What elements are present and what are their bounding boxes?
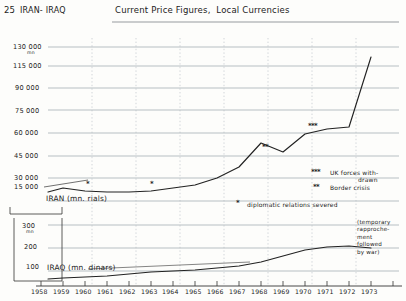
annotation-box-line-2: rapproche- — [357, 226, 403, 233]
x-label-1971: 1971 — [317, 288, 334, 295]
x-label-1968: 1968 — [251, 288, 268, 295]
iran-series-label: IRAN (mn. rials) — [46, 194, 107, 203]
country-pair-label: IRAN- IRAQ — [20, 6, 66, 15]
x-label-1973: 1973 — [361, 288, 378, 295]
x-label-1970: 1970 — [295, 288, 312, 295]
annotation-box-line-3: ment — [357, 234, 403, 241]
y-label-90000: 90 000 — [15, 84, 39, 92]
x-label-1967: 1967 — [229, 288, 246, 295]
marker-double-1969: ** — [262, 143, 268, 151]
iran-leader-line — [44, 180, 88, 187]
x-label-1965: 1965 — [185, 288, 202, 295]
y-unit-note-top: mn — [27, 50, 35, 55]
annotation-box: (temporary rapproche- ment followed by w… — [357, 219, 403, 272]
legend-marker-single: * — [236, 199, 239, 207]
y-label-115000: 115 000 — [13, 62, 42, 70]
iraq-series-label: IRAQ (mn. dinars) — [47, 263, 116, 272]
x-label-1969: 1969 — [273, 288, 290, 295]
y-label-75000: 75 000 — [15, 107, 39, 115]
marker-single-1961: * — [86, 180, 89, 188]
horizontal-gridlines — [48, 47, 399, 271]
x-label-1962: 1962 — [119, 288, 136, 295]
x-label-1959: 1959 — [53, 288, 70, 295]
y-label-30000: 30 000 — [14, 174, 38, 182]
legend-text-uk-forces-cont: drawn — [358, 176, 378, 183]
x-label-1966: 1966 — [207, 288, 224, 295]
chart-page: 25 IRAN- IRAQ Current Price Figures, Loc… — [0, 0, 406, 301]
legend-marker-triple: *** — [311, 168, 320, 176]
x-axis-ticks — [41, 281, 393, 286]
annotation-box-line-1: (temporary — [357, 219, 403, 226]
x-label-1960: 1960 — [75, 288, 92, 295]
chart-canvas — [0, 0, 406, 301]
page-number: 25 — [4, 5, 15, 15]
secondary-scale-bracket-top — [10, 207, 62, 214]
marker-triple-1971: *** — [308, 122, 317, 130]
y-label-45000: 45 000 — [14, 152, 38, 160]
x-label-1972: 1972 — [339, 288, 356, 295]
x-label-1958: 1958 — [31, 288, 48, 295]
x-label-1964: 1964 — [162, 288, 179, 295]
legend-text-uk-forces: UK forces with- — [330, 169, 378, 176]
x-label-1963: 1963 — [141, 288, 158, 295]
y2-label-200: 200 — [24, 243, 37, 251]
legend-text-diplomatic: diplomatic relations severed — [247, 201, 338, 208]
annotation-box-line-4: followed — [357, 241, 403, 248]
iran-series-line — [48, 57, 371, 192]
y-label-60000: 60 000 — [14, 129, 38, 137]
annotation-box-line-5: by war) — [357, 249, 403, 256]
marker-single-1965: * — [150, 180, 153, 188]
x-label-1961: 1961 — [97, 288, 114, 295]
y2-label-100: 100 — [26, 263, 39, 271]
legend-text-border-crisis: Border crisis — [330, 184, 370, 191]
chart-title: Current Price Figures, Local Currencies — [115, 5, 290, 15]
y2-unit-note: mn — [26, 229, 34, 234]
y-label-15000: 15 000 — [14, 183, 38, 191]
legend-marker-double: ** — [313, 183, 319, 191]
